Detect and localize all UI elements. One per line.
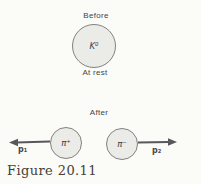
before-label: Before [76, 11, 116, 20]
after-label: After [79, 108, 119, 117]
pi-plus-symbol: π⁺ [61, 138, 71, 148]
left-momentum-arrow [9, 139, 50, 146]
pi-plus-particle: π⁺ [50, 127, 82, 159]
right-momentum-arrow [138, 138, 177, 145]
figure-caption: Figure 20.11 [7, 163, 97, 178]
pi-minus-particle: π⁻ [106, 128, 138, 160]
kaon-symbol: K⁰ [90, 41, 99, 51]
p2-momentum-label: p₂ [152, 146, 161, 155]
kaon-particle: K⁰ [72, 24, 116, 68]
p1-momentum-label: p₁ [18, 145, 27, 154]
at-rest-label: At rest [69, 68, 121, 77]
physics-decay-diagram: Before K⁰ At rest After π⁺ π⁻ p₁ p₂ Figu… [0, 0, 201, 184]
pi-minus-symbol: π⁻ [117, 139, 127, 149]
